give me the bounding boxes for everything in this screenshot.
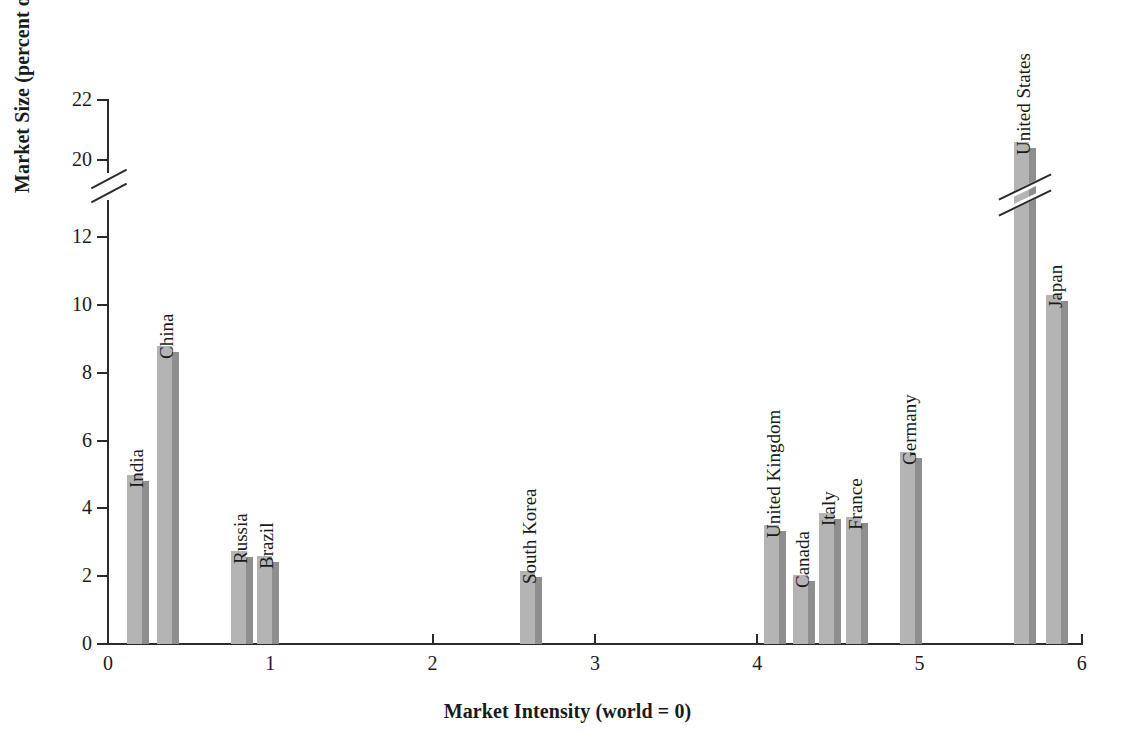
bar-face — [819, 513, 834, 644]
y-tick-6 — [97, 440, 108, 442]
bar-label-japan: Japan — [1046, 265, 1065, 308]
bar-side-shading — [142, 481, 149, 645]
y-tick-label-wrap-8: 8 — [0, 362, 92, 382]
bar-label-france: France — [846, 478, 865, 530]
y-tick-label-8: 8 — [46, 362, 92, 382]
bar-united-states — [1014, 142, 1036, 644]
x-tick-label-1: 1 — [250, 652, 290, 675]
x-tick-label-4: 4 — [737, 652, 777, 675]
bar-label-russia: Russia — [231, 513, 250, 564]
bar-china — [157, 346, 179, 644]
y-tick-10 — [97, 304, 108, 306]
y-tick-label-22: 22 — [46, 89, 92, 109]
bar-germany — [900, 452, 922, 644]
bar-side-shading — [172, 352, 179, 644]
bar-face — [900, 452, 915, 644]
y-tick-label-wrap-6: 6 — [0, 430, 92, 450]
bar-side-shading — [1029, 148, 1036, 644]
y-tick-12 — [97, 236, 108, 238]
y-tick-22 — [97, 99, 108, 101]
bar-chart: Market Size (percent of world market) Ma… — [0, 0, 1135, 745]
bar-side-shading — [1061, 301, 1068, 644]
bar-face — [846, 517, 861, 644]
bar-side-shading — [915, 458, 922, 644]
x-tick-label-6: 6 — [1062, 652, 1102, 675]
y-tick-8 — [97, 372, 108, 374]
bar-united-kingdom — [764, 525, 786, 644]
bar-label-canada: Canada — [793, 531, 812, 588]
y-tick-label-wrap-4: 4 — [0, 497, 92, 517]
bar-face — [231, 551, 246, 644]
y-tick-label-10: 10 — [46, 294, 92, 314]
bar-side-shading — [272, 562, 279, 644]
bar-face — [764, 525, 779, 644]
y-tick-label-wrap-12: 12 — [0, 226, 92, 246]
x-tick-label-2: 2 — [413, 652, 453, 675]
x-tick-label-0: 0 — [88, 652, 128, 675]
y-tick-label-2: 2 — [46, 565, 92, 585]
y-tick-label-20: 20 — [46, 149, 92, 169]
bar-side-shading — [861, 523, 868, 644]
bar-brazil — [257, 556, 279, 644]
y-tick-label-wrap-10: 10 — [0, 294, 92, 314]
bar-side-shading — [246, 557, 253, 644]
bar-label-italy: Italy — [819, 492, 838, 527]
x-axis-title: Market Intensity (world = 0) — [0, 700, 1135, 723]
bar-face — [1046, 295, 1061, 644]
bar-face — [1014, 142, 1029, 644]
plot-area: IndiaChinaRussiaBrazilSouth KoreaUnited … — [109, 99, 1083, 644]
y-tick-20 — [97, 159, 108, 161]
y-tick-label-6: 6 — [46, 430, 92, 450]
bar-italy — [819, 513, 841, 644]
bar-label-china: China — [157, 313, 176, 358]
y-tick-label-12: 12 — [46, 226, 92, 246]
y-tick-label-wrap-20: 20 — [0, 149, 92, 169]
y-tick-label-wrap-2: 2 — [0, 565, 92, 585]
bar-side-shading — [808, 581, 815, 644]
bar-japan — [1046, 295, 1068, 644]
y-tick-label-4: 4 — [46, 497, 92, 517]
bar-side-shading — [779, 531, 786, 644]
bar-side-shading — [535, 577, 542, 644]
y-tick-label-0: 0 — [46, 633, 92, 653]
y-tick-4 — [97, 507, 108, 509]
y-tick-label-wrap-22: 22 — [0, 89, 92, 109]
y-tick-2 — [97, 575, 108, 577]
bar-label-south-korea: South Korea — [520, 489, 539, 585]
bar-label-united-states: United States — [1014, 53, 1033, 155]
bar-face — [127, 475, 142, 645]
bar-label-united-kingdom: United Kingdom — [764, 410, 783, 538]
x-tick-label-3: 3 — [575, 652, 615, 675]
bar-label-india: India — [127, 448, 146, 487]
bar-france — [846, 517, 868, 644]
bar-label-brazil: Brazil — [257, 522, 276, 568]
bar-face — [257, 556, 272, 644]
x-tick-label-5: 5 — [900, 652, 940, 675]
y-tick-label-wrap-0: 0 — [0, 633, 92, 653]
bar-face — [157, 346, 172, 644]
bar-side-shading — [834, 519, 841, 644]
bar-india — [127, 475, 149, 645]
bar-russia — [231, 551, 253, 644]
bar-label-germany: Germany — [900, 395, 919, 466]
